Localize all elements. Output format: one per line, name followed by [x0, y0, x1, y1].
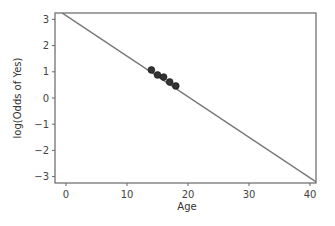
x-tick-label: 20	[182, 189, 195, 200]
y-tick-label: 0	[43, 93, 49, 104]
plot-frame	[55, 13, 316, 183]
data-point	[160, 74, 167, 81]
plot-area	[55, 13, 316, 183]
data-point	[172, 83, 179, 90]
x-tick-label: 10	[121, 189, 134, 200]
y-tick-label: −3	[34, 171, 49, 182]
x-axis-label: Age	[177, 201, 196, 212]
x-tick-label: 0	[63, 189, 69, 200]
data-point	[154, 72, 161, 79]
y-tick-label: 3	[43, 14, 49, 25]
fitted-line	[62, 13, 316, 182]
data-point	[148, 67, 155, 74]
y-axis-label: log(Odds of Yes)	[12, 57, 23, 138]
data-point	[166, 79, 173, 86]
x-tick-label: 30	[243, 189, 256, 200]
x-axis: 010203040	[63, 183, 317, 200]
x-tick-label: 40	[304, 189, 317, 200]
y-tick-label: −2	[34, 145, 49, 156]
y-axis: −3−2−10123	[34, 14, 55, 182]
y-tick-label: −1	[34, 119, 49, 130]
chart: 010203040 −3−2−10123 Age log(Odds of Yes…	[0, 0, 335, 226]
y-tick-label: 1	[43, 66, 49, 77]
y-tick-label: 2	[43, 40, 49, 51]
